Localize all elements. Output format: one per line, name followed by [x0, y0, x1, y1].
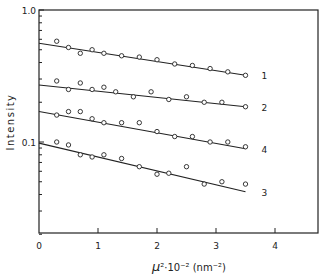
- data-point: [243, 145, 247, 149]
- data-series: 1243: [39, 39, 268, 198]
- data-point: [226, 70, 230, 74]
- data-point: [131, 95, 135, 99]
- x-axis-label: μ²·10⁻² (nm⁻²): [151, 259, 226, 274]
- data-point: [102, 121, 106, 125]
- data-point: [149, 90, 153, 94]
- data-point: [137, 121, 141, 125]
- data-point: [55, 39, 59, 43]
- data-point: [55, 140, 59, 144]
- data-point: [90, 155, 94, 159]
- data-point: [243, 105, 247, 109]
- data-point: [102, 51, 106, 55]
- data-point: [78, 109, 82, 113]
- series-2: 2: [39, 79, 267, 113]
- data-point: [184, 95, 188, 99]
- data-point: [114, 90, 118, 94]
- data-point: [90, 48, 94, 52]
- data-point: [243, 73, 247, 77]
- y-axis-label: Intensity: [5, 93, 16, 150]
- y-tick-label-1.0: 1.0: [22, 6, 37, 16]
- intensity-chart: 1243 1.0 0.1 0 1 2 3 4 Intensity μ²·10⁻²…: [0, 0, 327, 278]
- data-point: [90, 87, 94, 91]
- data-point: [119, 156, 123, 160]
- series-4: 4: [39, 109, 268, 154]
- data-point: [102, 85, 106, 89]
- series-label: 4: [262, 145, 268, 155]
- series-label: 2: [262, 103, 268, 113]
- data-point: [90, 117, 94, 121]
- series-label: 3: [262, 188, 268, 198]
- data-point: [119, 121, 123, 125]
- x-tick-label-4: 4: [272, 241, 278, 251]
- x-tick-label-2: 2: [154, 241, 160, 251]
- x-axis-label-mu: μ: [151, 259, 160, 274]
- data-point: [208, 66, 212, 70]
- series-label: 1: [262, 71, 268, 81]
- data-point: [137, 55, 141, 59]
- data-point: [119, 54, 123, 58]
- data-point: [155, 172, 159, 176]
- data-point: [55, 79, 59, 83]
- data-point: [208, 140, 212, 144]
- data-point: [190, 134, 194, 138]
- x-axis-ticks: [98, 228, 275, 233]
- fit-line: [39, 143, 246, 192]
- data-point: [190, 63, 194, 67]
- data-point: [202, 100, 206, 104]
- data-point: [243, 182, 247, 186]
- data-point: [78, 153, 82, 157]
- data-point: [66, 143, 70, 147]
- x-tick-label-0: 0: [36, 241, 42, 251]
- data-point: [78, 51, 82, 55]
- x-tick-label-3: 3: [213, 241, 219, 251]
- series-1: 1: [39, 39, 267, 81]
- data-point: [202, 182, 206, 186]
- data-point: [220, 180, 224, 184]
- data-point: [173, 134, 177, 138]
- data-point: [167, 97, 171, 101]
- data-point: [220, 100, 224, 104]
- data-point: [66, 45, 70, 49]
- series-3: 3: [39, 140, 267, 198]
- data-point: [226, 140, 230, 144]
- y-tick-label-0.1: 0.1: [22, 138, 36, 148]
- data-point: [155, 129, 159, 133]
- data-point: [78, 81, 82, 85]
- data-point: [167, 171, 171, 175]
- x-axis-label-rest: ²·10⁻² (nm⁻²): [160, 262, 226, 273]
- data-point: [173, 62, 177, 66]
- plot-frame: [39, 10, 318, 233]
- data-point: [55, 113, 59, 117]
- data-point: [155, 58, 159, 62]
- data-point: [66, 109, 70, 113]
- data-point: [184, 164, 188, 168]
- x-tick-label-1: 1: [95, 241, 101, 251]
- data-point: [137, 164, 141, 168]
- data-point: [66, 87, 70, 91]
- data-point: [102, 153, 106, 157]
